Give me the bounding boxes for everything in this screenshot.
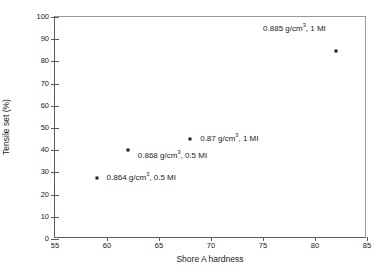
y-axis-tick-inner	[55, 239, 59, 240]
data-point	[126, 149, 129, 152]
y-axis-tick-label: 50	[41, 124, 49, 132]
data-point	[189, 138, 192, 141]
y-axis-tick-inner	[55, 128, 59, 129]
y-axis-title: Tensile set (%)	[2, 99, 11, 155]
y-axis-tick-label: 100	[36, 13, 49, 21]
y-axis-tick-inner	[55, 217, 59, 218]
data-point	[95, 176, 98, 179]
y-axis-tick-label: 0	[45, 235, 49, 243]
y-axis-tick-label: 80	[41, 58, 49, 66]
y-axis-tick-label: 70	[41, 80, 49, 88]
y-axis-tick-inner	[55, 39, 59, 40]
y-axis-tick-label: 40	[41, 146, 49, 154]
x-axis-tick-label: 75	[259, 242, 267, 250]
scatter-chart-figure: 0102030405060708090100 55606570758085 0.…	[0, 0, 388, 275]
y-axis-tick-label: 30	[41, 169, 49, 177]
data-point-label: 0.864 g/cm3, 0.5 MI	[107, 174, 176, 182]
x-axis-tick-label: 70	[207, 242, 215, 250]
x-axis-tick-label: 60	[103, 242, 111, 250]
x-axis-title: Shore A hardness	[54, 255, 366, 264]
x-axis-tick-label: 80	[311, 242, 319, 250]
data-point	[334, 50, 337, 53]
y-axis-tick-inner	[55, 195, 59, 196]
x-axis-tick-label: 85	[363, 242, 371, 250]
data-point-label: 0.87 g/cm3, 1 MI	[200, 135, 258, 143]
y-axis-tick-label: 20	[41, 191, 49, 199]
y-axis-tick-inner	[55, 84, 59, 85]
y-axis-tick-label: 10	[41, 213, 49, 221]
data-point-label: 0.885 g/cm3, 1 MI	[263, 25, 326, 33]
y-axis-tick-label: 90	[41, 35, 49, 43]
x-axis-tick-label: 65	[155, 242, 163, 250]
x-axis-tick-label: 55	[51, 242, 59, 250]
y-axis-tick-inner	[55, 61, 59, 62]
y-axis-tick-inner	[55, 17, 59, 18]
plot-area: 0102030405060708090100 55606570758085 0.…	[54, 16, 366, 238]
y-axis-tick-inner	[55, 172, 59, 173]
y-axis-tick-label: 60	[41, 102, 49, 110]
y-axis-tick-inner	[55, 150, 59, 151]
data-point-label: 0.868 g/cm3, 0.5 MI	[138, 152, 207, 160]
y-axis-tick-inner	[55, 106, 59, 107]
